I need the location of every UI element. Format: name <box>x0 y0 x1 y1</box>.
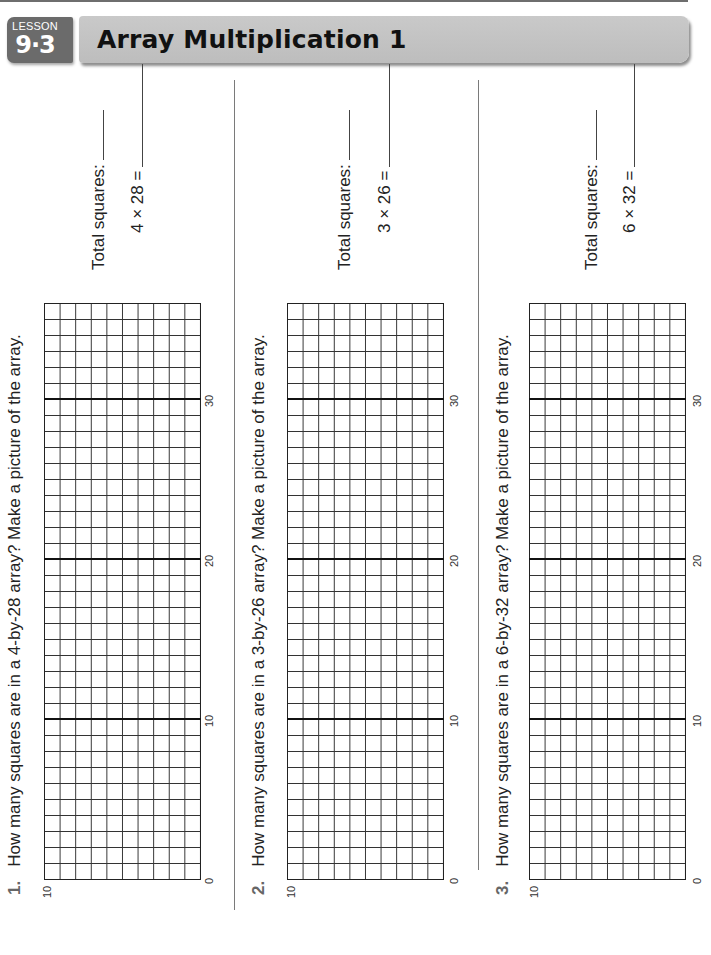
tick-label-10: 10 <box>448 715 460 727</box>
problem-number: 1. <box>5 881 24 895</box>
question-text: 2.How many squares are in a 3-by-26 arra… <box>249 334 269 895</box>
tick-label-origin: 0 <box>691 878 703 884</box>
tick-label-20: 20 <box>203 555 215 567</box>
lesson-badge: LESSON 9·3 <box>7 17 73 63</box>
tick-label-30: 30 <box>203 395 215 407</box>
tick-label-10: 10 <box>691 715 703 727</box>
array-grid[interactable] <box>529 303 686 880</box>
equation-blank[interactable] <box>375 64 390 167</box>
grid-mark-20 <box>529 558 686 560</box>
problem-number: 3. <box>493 881 512 895</box>
array-grid[interactable] <box>44 303 201 880</box>
equation-blank[interactable] <box>620 64 635 167</box>
total-squares-blank[interactable] <box>582 110 597 160</box>
grid-mark-20 <box>44 558 201 560</box>
total-squares-blank[interactable] <box>335 110 350 160</box>
tick-label-10: 10 <box>203 715 215 727</box>
top-rule <box>0 0 688 2</box>
question-text: 1.How many squares are in a 4-by-28 arra… <box>5 334 25 895</box>
equation-label: 3 × 26 = <box>375 64 395 233</box>
grid-mark-10 <box>529 718 686 720</box>
divider-1 <box>234 80 235 910</box>
tick-label-side: 10 <box>285 886 297 898</box>
divider-2 <box>478 80 479 870</box>
page-title: Array Multiplication 1 <box>97 25 407 54</box>
lesson-number: 9·3 <box>7 31 63 59</box>
total-squares-label: Total squares: <box>582 110 602 270</box>
tick-label-30: 30 <box>691 395 703 407</box>
total-squares-label: Total squares: <box>89 110 109 270</box>
tick-label-origin: 0 <box>203 878 215 884</box>
equation-blank[interactable] <box>128 64 143 167</box>
equation-label: 6 × 32 = <box>620 64 640 233</box>
grid-mark-10 <box>287 718 444 720</box>
title-bar: Array Multiplication 1 <box>79 16 689 63</box>
grid-mark-30 <box>44 398 201 400</box>
tick-label-30: 30 <box>448 395 460 407</box>
grid-mark-20 <box>287 558 444 560</box>
array-grid[interactable] <box>287 303 444 880</box>
grid-mark-10 <box>44 718 201 720</box>
grid-mark-30 <box>287 398 444 400</box>
total-squares-label: Total squares: <box>335 110 355 270</box>
equation-label: 4 × 28 = <box>128 64 148 233</box>
tick-label-side: 10 <box>528 886 540 898</box>
tick-label-side: 10 <box>41 886 53 898</box>
total-squares-blank[interactable] <box>89 110 104 160</box>
tick-label-origin: 0 <box>448 878 460 884</box>
problem-number: 2. <box>249 881 268 895</box>
question-text: 3.How many squares are in a 6-by-32 arra… <box>493 334 513 895</box>
tick-label-20: 20 <box>448 555 460 567</box>
grid-mark-30 <box>529 398 686 400</box>
tick-label-20: 20 <box>691 555 703 567</box>
